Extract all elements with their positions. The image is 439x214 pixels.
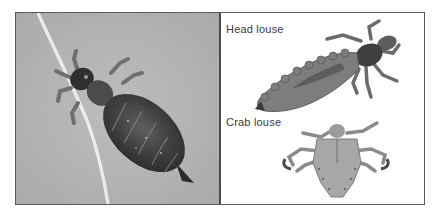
louse-illustrations — [221, 13, 424, 204]
head-and-crab-louse-panel: Head louse Crab louse — [221, 13, 424, 204]
head-louse-label: Head louse — [226, 23, 284, 35]
body-louse-photo — [16, 13, 219, 204]
crab-louse-illustration — [284, 123, 388, 197]
body-louse-illustration — [16, 13, 219, 204]
crab-louse-label: Crab louse — [226, 116, 281, 128]
louse-comparison-figure: Head louse Crab louse — [15, 12, 425, 205]
